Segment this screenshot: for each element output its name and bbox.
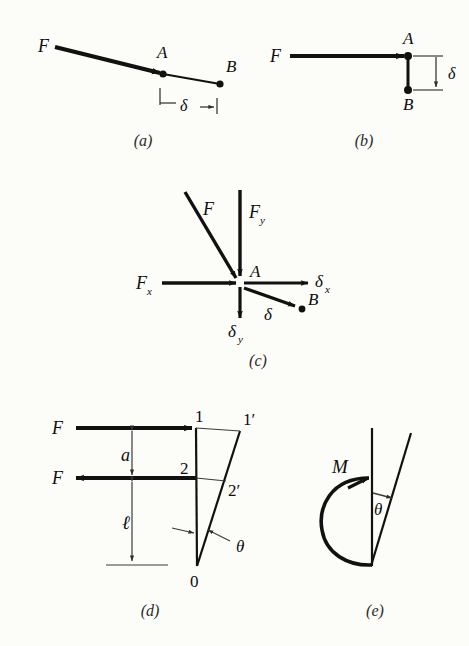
label-node-2-d: 2 <box>180 459 189 478</box>
panel-a: F A B δ (a) <box>37 36 237 150</box>
panel-b: F A B δ (b) <box>269 29 456 150</box>
caption-panel-e: (e) <box>366 602 384 620</box>
undeformed-member-d <box>196 428 197 566</box>
connector-1-1prime-d <box>196 428 240 431</box>
caption-panel-c: (c) <box>249 352 267 370</box>
label-dim-l-d: ℓ <box>122 512 130 533</box>
label-angle-d: θ <box>236 537 244 556</box>
point-a-dot <box>159 70 166 77</box>
point-b-dot-c <box>299 306 306 313</box>
label-delta-b: δ <box>448 65 456 82</box>
label-force-x-c: F x <box>135 273 152 297</box>
label-node-1prime-d: 1′ <box>243 410 255 429</box>
label-force-a: F <box>37 36 50 56</box>
label-dim-a-d: a <box>121 445 130 465</box>
label-delta-x-base: δ <box>315 272 324 291</box>
point-b-dot-b <box>404 86 412 94</box>
point-a-dot-b <box>404 52 412 60</box>
member-line-a <box>163 74 220 84</box>
label-delta-x-sub: x <box>324 283 330 295</box>
label-force-y-c: F y <box>248 202 265 226</box>
label-delta-y-base: δ <box>228 322 237 341</box>
label-point-a: A <box>156 43 168 62</box>
caption-panel-a: (a) <box>134 132 153 150</box>
label-point-b-c: B <box>308 290 319 309</box>
label-point-b: B <box>226 57 237 76</box>
label-point-a-b: A <box>402 29 414 48</box>
label-delta-y-c: δ y <box>228 322 243 345</box>
figure-canvas: F A B δ (a) F A B δ (b) <box>0 0 469 646</box>
label-force-top-d: F <box>51 418 64 438</box>
moment-arc-e <box>321 478 372 565</box>
label-point-b-b: B <box>403 95 414 114</box>
panel-e: M θ (e) <box>321 428 411 620</box>
angle-arrow-e <box>373 493 392 498</box>
label-force-c: F <box>202 199 215 219</box>
label-force-x-sub: x <box>146 285 152 297</box>
caption-panel-d: (d) <box>141 602 160 620</box>
label-force-y-sub: y <box>259 214 265 226</box>
label-delta-c: δ <box>264 305 273 324</box>
delta-arrow-c <box>244 288 295 306</box>
panel-d: F F a ℓ 1 1′ 2 2′ 0 θ (d) <box>51 407 255 620</box>
label-force-b: F <box>269 46 282 66</box>
label-angle-e: θ <box>374 500 382 519</box>
label-delta-a: δ <box>180 97 188 114</box>
angle-leader-left-d <box>172 528 194 533</box>
label-delta-y-sub: y <box>237 333 243 345</box>
connector-2-2prime-d <box>196 478 226 481</box>
label-moment-e: M <box>331 456 349 477</box>
force-arrow-a <box>55 47 160 73</box>
panel-c: F F y F x A B δ x δ y δ (c) <box>135 190 330 370</box>
label-node-0-d: 0 <box>190 572 199 591</box>
angle-leader-right-d <box>208 530 230 541</box>
label-node-1-d: 1 <box>195 407 204 426</box>
caption-panel-b: (b) <box>355 132 374 150</box>
figure-root: F A B δ (a) F A B δ (b) <box>0 0 469 646</box>
point-b-dot <box>216 80 223 87</box>
label-node-2prime-d: 2′ <box>228 481 240 500</box>
label-force-bottom-d: F <box>51 468 64 488</box>
label-point-a-c: A <box>249 262 261 281</box>
